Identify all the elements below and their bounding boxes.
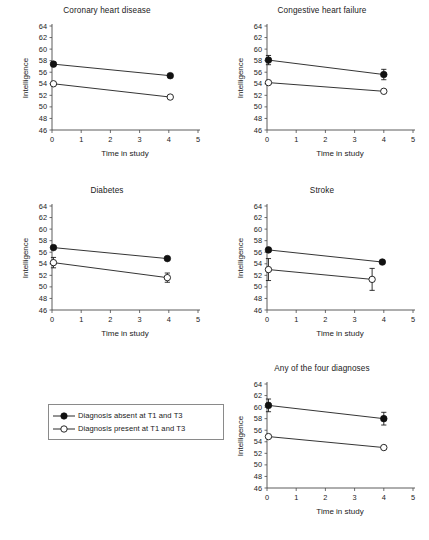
x-tick-label: 0 [265,493,269,502]
x-axis-title: Time in study [316,149,363,158]
x-tick-label: 2 [323,315,327,324]
x-tick-label: 3 [353,135,357,144]
x-tick-label: 2 [108,135,112,144]
y-tick-label: 46 [254,126,262,135]
data-point-filled [265,57,272,64]
plot-area: 46485052545658606264012345Time in studyI… [215,180,429,360]
y-tick-label: 48 [39,114,47,123]
y-tick-label: 46 [254,484,262,493]
y-tick-label: 62 [39,33,47,42]
data-point-filled [50,244,57,251]
data-point-filled [50,61,57,68]
y-tick-label: 54 [254,259,262,268]
y-axis-title: Intelligence [236,415,245,456]
x-axis-title: Time in study [316,329,363,338]
y-tick-label: 48 [254,472,262,481]
filled-circle-marker-icon [53,410,75,422]
y-tick-label: 54 [39,79,47,88]
y-tick-label: 58 [254,236,262,245]
open-circle-marker-icon [53,423,75,435]
x-axis-title: Time in study [101,149,148,158]
figure-panel-grid: Coronary heart disease 46485052545658606… [0,0,429,540]
legend: Diagnosis absent at T1 and T3 Diagnosis … [48,404,224,440]
y-tick-label: 52 [254,91,262,100]
data-point-filled [265,247,272,254]
y-tick-label: 60 [254,403,262,412]
y-tick-label: 52 [39,271,47,280]
data-point-open [265,79,271,85]
y-tick-label: 60 [254,225,262,234]
legend-label: Diagnosis absent at T1 and T3 [75,411,183,420]
y-tick-label: 60 [254,45,262,54]
y-tick-label: 62 [254,213,262,222]
y-tick-label: 54 [254,437,262,446]
data-point-open [381,88,387,94]
y-tick-label: 46 [39,306,47,315]
y-axis-title: Intelligence [21,237,30,278]
chart-panel-stroke: Stroke 46485052545658606264012345Time in… [215,180,429,360]
data-point-filled [265,402,272,409]
plot-area: 46485052545658606264012345Time in studyI… [0,0,214,180]
x-tick-label: 0 [50,315,54,324]
y-tick-label: 56 [39,248,47,257]
data-point-filled [381,415,388,422]
y-tick-label: 64 [254,202,262,211]
data-point-open [265,266,271,272]
y-axis-title: Intelligence [21,57,30,98]
x-tick-label: 0 [265,135,269,144]
legend-label: Diagnosis present at T1 and T3 [75,424,185,433]
x-tick-label: 1 [294,315,298,324]
y-tick-label: 48 [39,294,47,303]
x-tick-label: 2 [323,135,327,144]
y-axis-title: Intelligence [236,57,245,98]
y-tick-label: 46 [39,126,47,135]
x-tick-label: 3 [353,315,357,324]
x-axis-title: Time in study [316,507,363,516]
y-tick-label: 58 [254,56,262,65]
plot-area: 46485052545658606264012345Time in studyI… [0,180,214,360]
y-tick-label: 58 [39,56,47,65]
y-tick-label: 60 [39,45,47,54]
x-tick-label: 1 [79,315,83,324]
x-tick-label: 4 [167,135,171,144]
chart-panel-congestive-heart-failure: Congestive heart failure 464850525456586… [215,0,429,180]
y-tick-label: 50 [254,282,262,291]
data-point-filled [381,71,388,78]
y-tick-label: 56 [39,68,47,77]
data-point-open [265,433,271,439]
y-tick-label: 48 [254,294,262,303]
x-tick-label: 3 [138,135,142,144]
data-point-open [50,81,56,87]
y-tick-label: 50 [254,460,262,469]
y-tick-label: 56 [254,248,262,257]
x-tick-label: 2 [108,315,112,324]
data-point-filled [164,255,171,262]
x-tick-label: 2 [323,493,327,502]
y-tick-label: 52 [254,271,262,280]
y-tick-label: 64 [39,22,47,31]
y-tick-label: 58 [39,236,47,245]
x-tick-label: 1 [294,135,298,144]
y-tick-label: 62 [39,213,47,222]
y-axis-title: Intelligence [236,237,245,278]
y-tick-label: 48 [254,114,262,123]
chart-panel-any-of-the-four-diagnoses: Any of the four diagnoses 46485052545658… [215,358,429,538]
y-tick-label: 54 [39,259,47,268]
y-tick-label: 54 [254,79,262,88]
chart-panel-coronary-heart-disease: Coronary heart disease 46485052545658606… [0,0,214,180]
plot-area: 46485052545658606264012345Time in studyI… [215,0,429,180]
y-tick-label: 52 [39,91,47,100]
y-tick-label: 60 [39,225,47,234]
plot-area: 46485052545658606264012345Time in studyI… [215,358,429,538]
x-tick-label: 4 [382,493,386,502]
y-tick-label: 50 [39,102,47,111]
x-axis-title: Time in study [101,329,148,338]
y-tick-label: 56 [254,426,262,435]
x-tick-label: 1 [79,135,83,144]
x-tick-label: 4 [382,135,386,144]
y-tick-label: 62 [254,391,262,400]
legend-item-diagnosis-present: Diagnosis present at T1 and T3 [53,422,218,435]
x-tick-label: 1 [294,493,298,502]
x-tick-label: 0 [50,135,54,144]
x-tick-label: 5 [411,135,415,144]
